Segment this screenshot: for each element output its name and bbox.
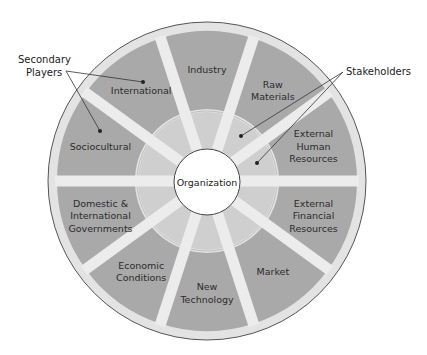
organization-environment-wheel: Organization IndustryRawMaterialsExterna… [0,0,427,355]
segment-label: ExternalHumanResources [289,128,338,164]
callout-dot [255,161,259,165]
callout-dot [239,134,243,138]
segment-label: Domestic &InternationalGovernments [68,198,132,234]
secondary-players-label-2: Players [26,67,62,78]
secondary-players-label: Secondary [18,54,71,65]
segment-label: International [111,85,172,96]
segment-label: Sociocultural [70,141,132,152]
segment-label: EconomicConditions [116,260,166,284]
segment-label: Market [257,266,290,277]
stakeholders-label: Stakeholders [346,66,411,77]
callout-dot [98,129,102,133]
segment-label: Industry [187,64,226,75]
segment-label: ExternalFinancialResources [289,198,338,234]
organization-label: Organization [177,177,238,188]
callout-dot [141,80,145,84]
